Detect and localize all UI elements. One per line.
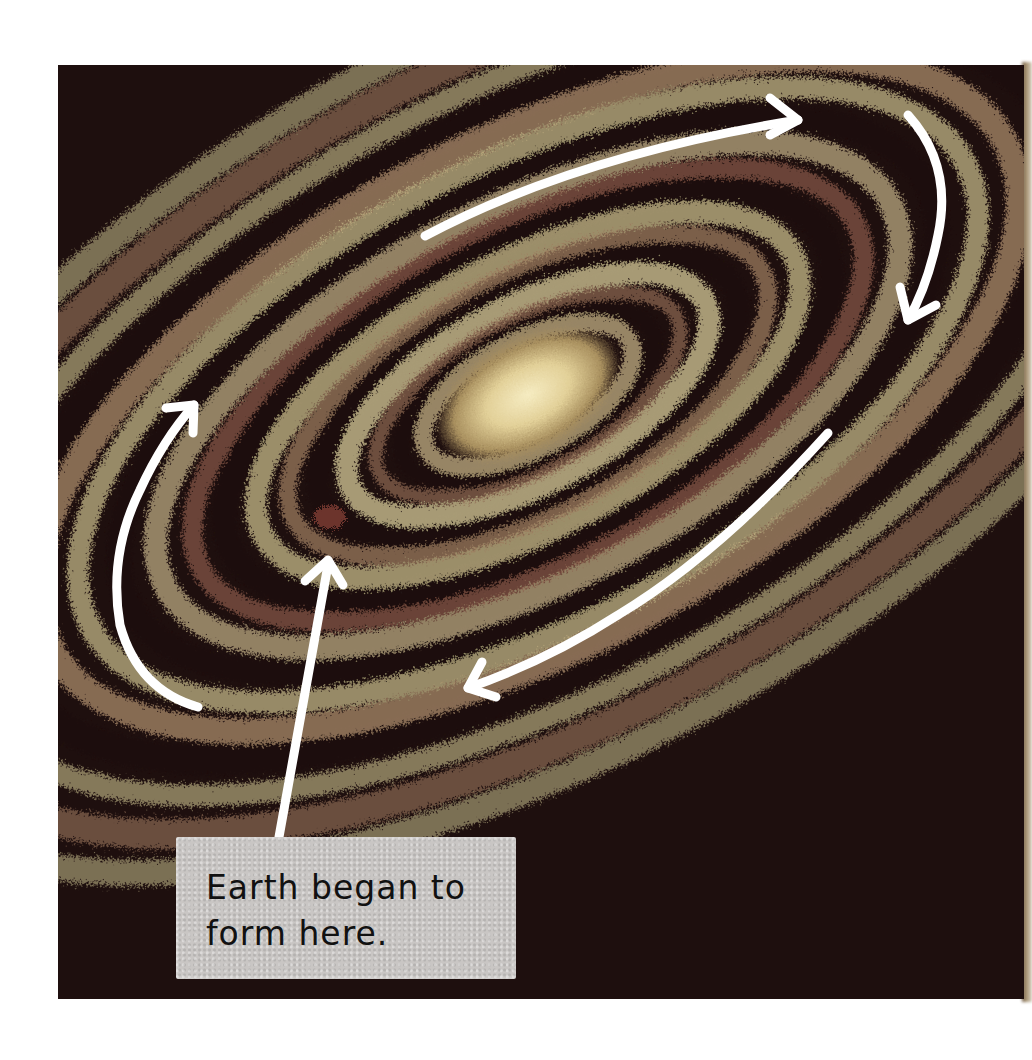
caption-box: Earth began to form here. (176, 837, 516, 979)
earth-formation-spot (314, 505, 346, 529)
caption-text: Earth began to form here. (206, 865, 498, 957)
illustration-panel: Earth began to form here. (58, 65, 1024, 999)
